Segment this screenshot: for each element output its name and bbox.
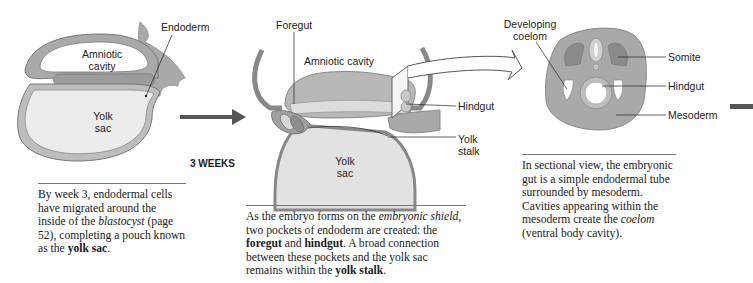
caption2-text5: . xyxy=(383,264,386,277)
caption1-bold-yolk-sac: yolk sac xyxy=(68,242,108,255)
label-endoderm: Endoderm xyxy=(161,21,209,33)
caption2-bold-hindgut: hindgut xyxy=(304,237,343,250)
caption3-italic-coelom: coelom xyxy=(621,213,654,226)
label-yolk-sac-line2: sac xyxy=(88,122,118,134)
label-yolk-sac-line1: Yolk xyxy=(88,110,118,122)
label-yolk-sac-2-line2: sac xyxy=(330,167,360,179)
caption2-text3: and xyxy=(282,237,305,250)
label-foregut: Foregut xyxy=(276,19,312,31)
caption2-bold-foregut: foregut xyxy=(246,237,282,250)
panel3-notochord xyxy=(593,64,599,70)
caption3-text2: (ventral body cavity). xyxy=(522,227,622,240)
caption2-text1: As the embryo forms on the xyxy=(246,210,379,223)
label-yolk-stalk: Yolk stalk xyxy=(458,133,480,157)
arrow-panel1-to-panel2 xyxy=(180,109,246,125)
label-mesoderm: Mesoderm xyxy=(668,109,718,121)
caption-panel3: In sectional view, the embryonic gut is … xyxy=(522,154,676,241)
caption2-bold-yolk-stalk: yolk stalk xyxy=(335,264,383,277)
label-somite: Somite xyxy=(668,51,701,63)
label-amniotic-cavity-line1: Amniotic xyxy=(82,48,122,60)
label-amniotic-cavity: Amniotic cavity xyxy=(82,48,122,72)
panel2-amnion-left xyxy=(255,50,282,108)
label-yolk-sac-1: Yolk sac xyxy=(88,110,118,134)
label-yolk-stalk-line1: Yolk xyxy=(458,133,480,145)
label-yolk-stalk-line2: stalk xyxy=(458,145,480,157)
panel3-diagram xyxy=(536,28,666,130)
caption1-italic-blastocyst: blastocyst xyxy=(98,215,144,228)
label-developing-coelom-line1: Developing xyxy=(502,18,558,30)
label-yolk-sac-2-line1: Yolk xyxy=(330,155,360,167)
caption-panel1: By week 3, endodermal cells have migrate… xyxy=(38,183,186,256)
label-developing-coelom-line2: coelom xyxy=(502,30,558,42)
caption-panel2: As the embryo forms on the embryonic shi… xyxy=(246,205,466,278)
label-yolk-sac-2: Yolk sac xyxy=(330,155,360,179)
label-developing-coelom: Developing coelom xyxy=(502,18,558,42)
caption2-italic-embryonic-shield: embryonic shield xyxy=(379,210,459,223)
panel3-gut-lumen xyxy=(585,82,607,104)
label-hindgut-3: Hindgut xyxy=(668,80,704,92)
label-hindgut-2: Hindgut xyxy=(458,100,494,112)
label-amniotic-cavity-line2: cavity xyxy=(82,60,122,72)
arrow-to-next-panel xyxy=(730,104,753,109)
stage-label: 3 WEEKS xyxy=(190,158,235,169)
caption1-text3: . xyxy=(107,242,110,255)
label-amniotic-cavity-2: Amniotic cavity xyxy=(304,55,374,67)
panel1-diagram xyxy=(18,22,185,161)
